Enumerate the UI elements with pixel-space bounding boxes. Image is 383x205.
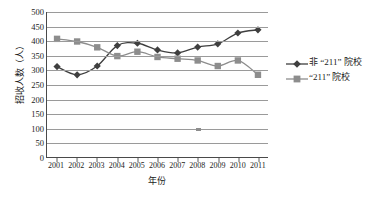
x-axis-tick-2009: 2009 (210, 161, 226, 171)
data-point-diamond (154, 46, 161, 53)
gridline (47, 12, 268, 13)
gridline (47, 27, 268, 28)
y-axis-tick-150: 150 (18, 110, 44, 118)
x-axis-tick-labels: 2001200220032004200520062007200820092010… (46, 161, 268, 173)
y-axis-tick-300: 300 (18, 66, 44, 74)
legend-item-1[interactable]: 非 “211” 院校 (286, 54, 383, 69)
gridline (47, 41, 268, 42)
data-point-square (94, 44, 100, 50)
gridline (47, 56, 268, 57)
legend-item-2[interactable]: “211” 院校 (286, 69, 383, 84)
y-axis-tick-500: 500 (18, 8, 44, 16)
x-axis-tick-2010: 2010 (230, 161, 246, 171)
y-axis-tick-0: 0 (18, 154, 44, 162)
y-axis-tick-100: 100 (18, 125, 44, 133)
y-axis-tick-50: 50 (18, 139, 44, 147)
chart-legend: 非 “211” 院校“211” 院校 (286, 54, 383, 84)
x-axis-tick-2007: 2007 (169, 161, 185, 171)
x-axis-tick-2008: 2008 (189, 161, 205, 171)
data-point-square (255, 72, 261, 78)
plot-area (46, 12, 268, 158)
y-axis-tick-250: 250 (18, 81, 44, 89)
legend-square-icon (286, 71, 308, 83)
data-point-square (194, 57, 200, 63)
gridline (47, 85, 268, 86)
x-axis-tick-2003: 2003 (88, 161, 104, 171)
y-axis-tick-450: 450 (18, 23, 44, 31)
stray-mark (196, 128, 201, 131)
x-axis-tick-2005: 2005 (129, 161, 145, 171)
x-axis-tick-2001: 2001 (48, 161, 64, 171)
chart-figure: 招收人数（人） 500450400350300250200150100500 2… (0, 0, 383, 205)
data-point-square (215, 63, 221, 69)
data-point-square (154, 54, 160, 60)
y-axis-tick-labels: 500450400350300250200150100500 (18, 8, 44, 160)
gridline (47, 114, 268, 115)
y-axis-tick-400: 400 (18, 37, 44, 45)
y-axis-tick-350: 350 (18, 52, 44, 60)
gridline (47, 100, 268, 101)
legend-label: 非 “211” 院校 (308, 55, 362, 68)
legend-diamond-icon (286, 56, 308, 68)
data-point-square (134, 49, 140, 55)
data-point-diamond (234, 29, 241, 36)
x-axis-title: 年份 (46, 174, 268, 187)
x-axis-tick-2004: 2004 (109, 161, 125, 171)
y-axis-tick-200: 200 (18, 96, 44, 104)
data-point-diamond (74, 71, 81, 78)
gridline (47, 70, 268, 71)
x-axis-tick-2006: 2006 (149, 161, 165, 171)
x-axis-tick-2011: 2011 (250, 161, 266, 171)
data-point-diamond (194, 43, 201, 50)
gridline (47, 143, 268, 144)
legend-label: “211” 院校 (308, 70, 350, 83)
gridline (47, 129, 268, 130)
data-point-square (235, 57, 241, 63)
data-point-diamond (53, 63, 60, 70)
x-axis-tick-2002: 2002 (68, 161, 84, 171)
